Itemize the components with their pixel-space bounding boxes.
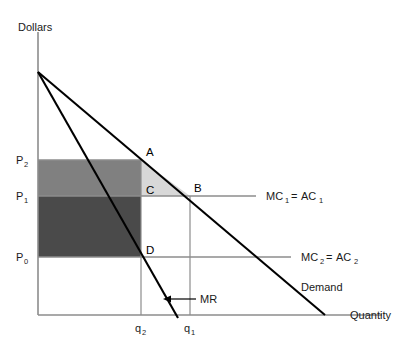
p1-base: P <box>16 190 23 202</box>
point-label-a: A <box>146 146 154 158</box>
price-tick-p2: P 2 <box>16 154 28 169</box>
price-tick-p1: P 1 <box>16 190 28 205</box>
mc2-base: MC <box>301 251 318 263</box>
upper-profit-rectangle <box>38 160 141 196</box>
demand-curve-label: Demand <box>301 281 343 293</box>
p0-base: P <box>16 251 23 263</box>
shaded-regions-group <box>38 160 190 257</box>
mc1-base: MC <box>266 190 283 202</box>
ac1-base: AC <box>301 190 316 202</box>
point-label-d: D <box>146 244 154 256</box>
ac2-base: AC <box>336 251 351 263</box>
curve-labels-group: MC 1 = AC 1 MC 2 = AC 2 Demand MR <box>200 190 358 305</box>
ac2-subscript: 2 <box>354 257 358 266</box>
mc2-ac2-label: MC 2 = AC 2 <box>301 251 358 266</box>
quantity-tick-q2: q 2 <box>135 322 146 337</box>
ac1-subscript: 1 <box>319 196 323 205</box>
p2-subscript: 2 <box>24 160 28 169</box>
q1-subscript: 1 <box>191 328 195 337</box>
point-labels-group: A B C D <box>146 146 202 256</box>
mc1-equals-sign: = <box>291 190 297 202</box>
monopoly-cost-diagram-svg: Dollars Quantity P 2 P 1 P 0 q 2 q <box>0 0 398 346</box>
mc2-equals-sign: = <box>326 251 332 263</box>
p2-base: P <box>16 154 23 166</box>
quantity-tick-q1: q 1 <box>184 322 195 337</box>
p0-subscript: 0 <box>24 257 28 266</box>
price-tick-labels-group: P 2 P 1 P 0 <box>16 154 28 266</box>
point-label-b: B <box>194 182 202 194</box>
q2-base: q <box>135 322 141 334</box>
mr-curve-label: MR <box>200 293 217 305</box>
x-axis-label: Quantity <box>350 309 391 321</box>
p1-subscript: 1 <box>24 196 28 205</box>
economics-diagram-figure: Dollars Quantity P 2 P 1 P 0 q 2 q <box>0 0 398 346</box>
quantity-tick-labels-group: q 2 q 1 <box>135 322 195 337</box>
point-label-c: C <box>146 184 154 196</box>
price-tick-p0: P 0 <box>16 251 28 266</box>
q2-subscript: 2 <box>142 328 146 337</box>
mc1-ac1-label: MC 1 = AC 1 <box>266 190 323 205</box>
y-axis-label: Dollars <box>18 21 53 33</box>
mc1-subscript: 1 <box>285 196 289 205</box>
mc2-subscript: 2 <box>320 257 324 266</box>
q1-base: q <box>184 322 190 334</box>
